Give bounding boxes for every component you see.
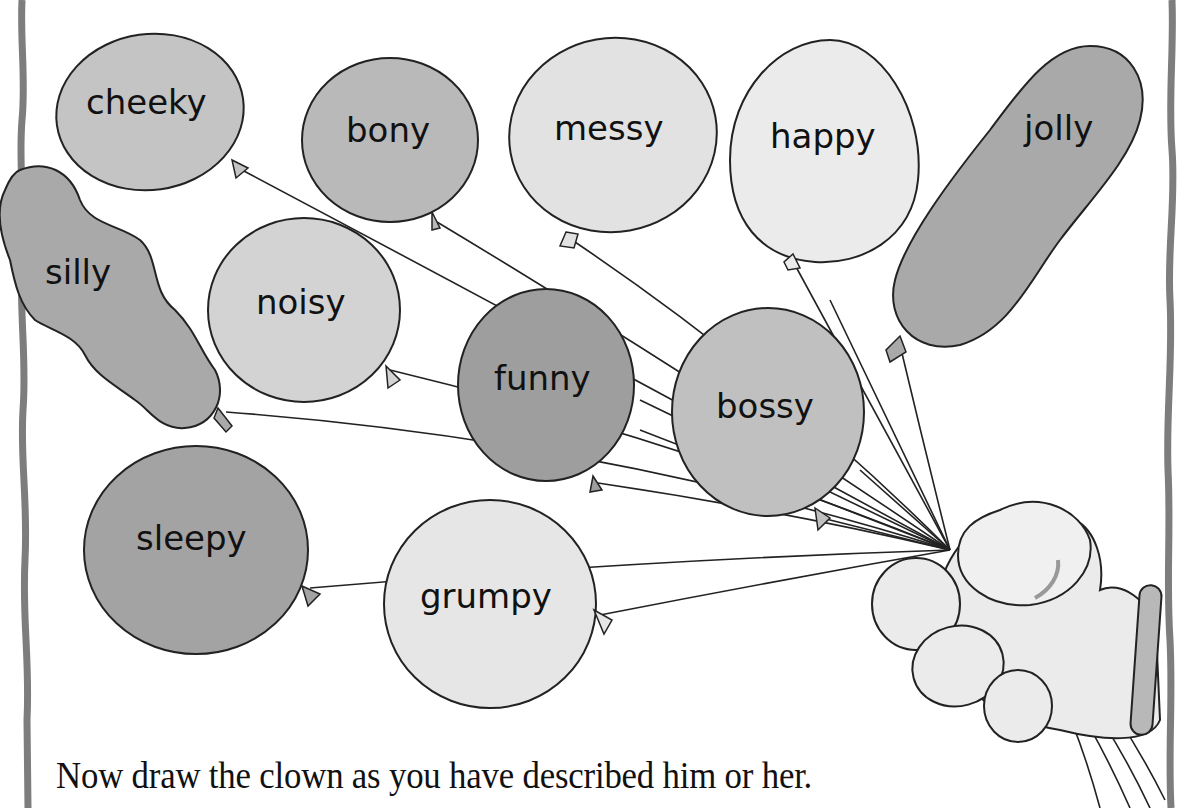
balloon-label-silly: silly [45,252,111,292]
balloon-label-messy: messy [554,108,664,148]
balloon-label-jolly: jolly [1023,108,1093,148]
balloon-label-noisy: noisy [256,282,346,322]
clown-glove-hand [872,502,1162,742]
balloon-label-funny: funny [494,358,591,398]
balloon-label-grumpy: grumpy [420,576,552,616]
balloon-label-sleepy: sleepy [136,518,247,558]
right-border [1168,0,1173,808]
balloon-label-bossy: bossy [716,386,814,426]
balloon-illustration: cheeky bony messy happy jolly silly nois… [0,0,1186,808]
balloon-jolly [886,46,1143,362]
left-border [21,0,28,808]
worksheet-page: cheeky bony messy happy jolly silly nois… [0,0,1186,808]
balloon-silly [0,166,232,432]
balloon-label-happy: happy [770,116,876,156]
balloon-label-bony: bony [346,110,430,150]
balloon-label-cheeky: cheeky [86,82,207,122]
instruction-text: Now draw the clown as you have described… [56,754,812,797]
